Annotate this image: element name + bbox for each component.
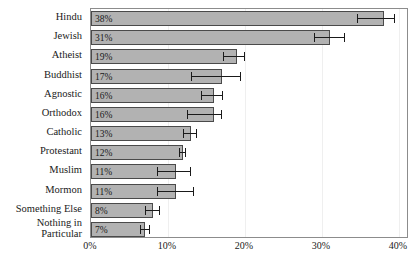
gridline	[399, 9, 400, 237]
x-axis-tick-label: 20%	[235, 240, 253, 251]
error-bar-line	[183, 133, 198, 134]
error-bar	[157, 184, 194, 199]
error-bar-cap-high	[221, 110, 222, 119]
bar-value-label: 16%	[95, 90, 112, 102]
bar-value-label: 11%	[95, 186, 112, 198]
error-bar-cap-high	[222, 91, 223, 100]
category-label-catholic: Catholic	[46, 127, 82, 138]
bar: 31%	[91, 30, 330, 45]
x-axis-tick-label: 30%	[312, 240, 330, 251]
error-bar-cap-high	[240, 72, 241, 81]
bar: 13%	[91, 126, 191, 141]
error-bar-cap-low	[201, 91, 202, 100]
bar-value-label: 31%	[95, 32, 112, 44]
error-bar-line	[187, 114, 222, 115]
error-bar	[223, 49, 245, 64]
error-bar	[191, 69, 241, 84]
error-bar-cap-high	[244, 52, 245, 61]
bar: 7%	[91, 222, 145, 237]
bar: 8%	[91, 203, 153, 218]
category-label-hindu: Hindu	[56, 12, 82, 23]
error-bar	[357, 11, 395, 26]
category-label-mormon: Mormon	[45, 185, 82, 196]
error-bar-cap-high	[344, 33, 345, 42]
bar-value-label: 13%	[95, 128, 112, 140]
error-bar-cap-low	[191, 72, 192, 81]
x-axis-tick-label: 0%	[83, 240, 96, 251]
error-bar	[201, 88, 223, 103]
category-label-atheist: Atheist	[52, 50, 82, 61]
error-bar-cap-low	[145, 206, 146, 215]
error-bar-cap-high	[196, 129, 197, 138]
error-bar-cap-low	[157, 187, 158, 196]
error-bar-line	[357, 18, 395, 19]
error-bar-cap-low	[223, 52, 224, 61]
category-label-agnostic: Agnostic	[44, 89, 82, 100]
bar-value-label: 12%	[95, 147, 112, 159]
error-bar	[187, 107, 222, 122]
bar-chart: Hindu Jewish Atheist Buddhist Agnostic O…	[0, 0, 420, 264]
category-label-jewish: Jewish	[53, 31, 82, 42]
error-bar-cap-high	[193, 187, 194, 196]
bar-value-label: 7%	[95, 224, 108, 236]
error-bar	[183, 126, 198, 141]
error-bar-cap-high	[159, 206, 160, 215]
error-bar-cap-low	[357, 14, 358, 23]
bar: 12%	[91, 145, 183, 160]
error-bar-line	[314, 37, 345, 38]
bar: 38%	[91, 11, 384, 26]
plot-area: 38%31%19%17%16%16%13%12%11%11%8%7%	[90, 8, 408, 238]
category-label-something-else: Something Else	[16, 204, 82, 215]
error-bar-cap-low	[183, 129, 184, 138]
category-label-buddhist: Buddhist	[44, 70, 82, 81]
bar-value-label: 8%	[95, 205, 108, 217]
error-bar-cap-high	[190, 167, 191, 176]
x-axis-tick-labels: 0%10%20%30%40%	[0, 240, 420, 260]
error-bar-cap-low	[140, 225, 141, 234]
category-label-muslim: Muslim	[49, 165, 82, 176]
error-bar	[157, 164, 191, 179]
bar: 16%	[91, 88, 214, 103]
error-bar	[140, 222, 150, 237]
error-bar-cap-high	[149, 225, 150, 234]
error-bar-cap-high	[185, 148, 186, 157]
error-bar-cap-low	[179, 148, 180, 157]
error-bar-line	[201, 95, 223, 96]
bar-value-label: 19%	[95, 51, 112, 63]
error-bar-line	[157, 191, 194, 192]
error-bar-line	[191, 76, 241, 77]
bar-value-label: 38%	[95, 13, 112, 25]
error-bar-cap-low	[157, 167, 158, 176]
error-bar-line	[145, 210, 160, 211]
error-bar-cap-high	[394, 14, 395, 23]
x-axis-tick-label: 10%	[158, 240, 176, 251]
category-label-orthodox: Orthodox	[42, 108, 82, 119]
error-bar	[314, 30, 345, 45]
x-axis-tick-label: 40%	[389, 240, 407, 251]
category-axis-labels: Hindu Jewish Atheist Buddhist Agnostic O…	[0, 0, 86, 264]
error-bar-cap-low	[314, 33, 315, 42]
error-bar	[179, 145, 187, 160]
error-bar-line	[223, 56, 245, 57]
error-bar-cap-low	[187, 110, 188, 119]
bar-value-label: 17%	[95, 71, 112, 83]
bar-value-label: 11%	[95, 166, 112, 178]
category-label-nothing-in-particular: Nothing in Particular	[0, 217, 82, 239]
category-label-protestant: Protestant	[40, 146, 82, 157]
bar-value-label: 16%	[95, 109, 112, 121]
error-bar-line	[157, 171, 191, 172]
bar: 19%	[91, 49, 237, 64]
error-bar	[145, 203, 160, 218]
